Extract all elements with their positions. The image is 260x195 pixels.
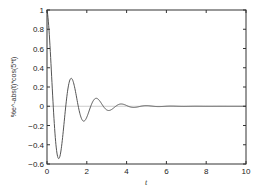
data-line [47,10,246,159]
y-tick-label: −0.6 [28,160,44,169]
y-tick-label: 1 [40,6,45,15]
x-tick-label: 4 [124,167,129,176]
x-tick-label: 8 [204,167,209,176]
x-tick-label: 10 [242,167,251,176]
y-tick-label: −0.4 [28,141,44,150]
y-tick-label: −0.2 [28,122,44,131]
plot-frame [47,10,246,164]
y-tick-label: 0.2 [33,83,45,92]
x-tick-label: 6 [164,167,169,176]
y-tick-label: 0 [40,102,45,111]
y-axis-label: %e^-abs(t)*cos(5*t) [10,57,18,117]
y-tick-label: 0.6 [33,45,45,54]
y-tick-label: 0.8 [33,25,45,34]
y-axis-ticks: −0.6−0.4−0.200.20.40.60.81 [28,6,246,169]
x-tick-label: 2 [85,167,90,176]
x-axis-label: t [145,178,148,187]
y-tick-label: 0.4 [33,64,45,73]
x-tick-label: 0 [45,167,50,176]
chart: 0246810 −0.6−0.4−0.200.20.40.60.81 t %e^… [0,0,260,195]
